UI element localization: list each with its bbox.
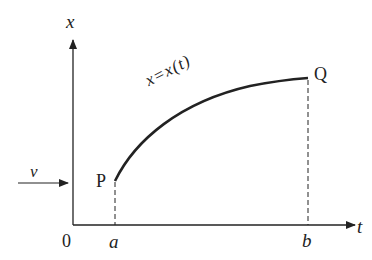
tick-label-b: b [302, 231, 312, 250]
v-label: v [30, 163, 38, 180]
y-axis-label: x [66, 12, 74, 31]
curve-x-of-t [115, 78, 308, 181]
tick-label-a: a [109, 232, 119, 251]
point-q-label: Q [314, 65, 327, 83]
point-p-label: P [96, 172, 106, 190]
diagram-canvas [0, 0, 372, 260]
origin-label: 0 [62, 232, 71, 250]
x-axis-label: t [357, 217, 362, 236]
